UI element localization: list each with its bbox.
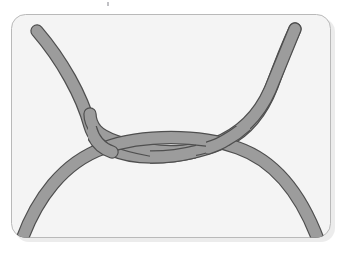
figure-root: [0, 0, 341, 253]
speck: [107, 2, 109, 6]
knot-diagram-svg: [0, 0, 341, 253]
